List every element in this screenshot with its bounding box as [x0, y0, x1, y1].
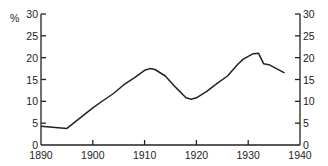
y-tick-label-left: 5 [32, 117, 38, 129]
data-line [41, 53, 285, 128]
x-tick-label: 1910 [133, 149, 157, 161]
y-tick-label-right: 15 [303, 74, 315, 86]
y-axis-unit-label: % [10, 12, 19, 24]
y-tick-label-left: 20 [26, 52, 38, 64]
line-chart: 0055101015152020252530301890190019101920… [0, 0, 328, 166]
y-tick-label-left: 25 [26, 30, 38, 42]
x-tick-label: 1930 [237, 149, 261, 161]
x-tick-label: 1890 [29, 149, 53, 161]
chart-axes [41, 14, 300, 145]
y-tick-label-right: 20 [303, 52, 315, 64]
chart-ticks [41, 14, 300, 145]
x-tick-label: 1920 [185, 149, 209, 161]
y-tick-label-left: 15 [26, 74, 38, 86]
y-tick-label-right: 25 [303, 30, 315, 42]
x-tick-label: 1940 [288, 149, 312, 161]
plot-area [41, 53, 285, 128]
chart-tick-labels: 0055101015152020252530301890190019101920… [26, 8, 315, 161]
y-tick-label-left: 30 [26, 8, 38, 20]
y-tick-label-right: 5 [303, 117, 309, 129]
x-tick-label: 1900 [81, 149, 105, 161]
y-tick-label-right: 10 [303, 95, 315, 107]
y-tick-label-right: 30 [303, 8, 315, 20]
y-tick-label-left: 10 [26, 95, 38, 107]
